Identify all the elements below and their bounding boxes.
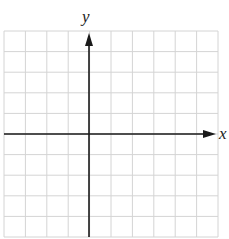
- y-axis-arrow-icon: [85, 33, 93, 46]
- y-axis-label: y: [80, 7, 90, 26]
- x-axis-arrow-icon: [203, 130, 216, 138]
- coordinate-grid: x y: [0, 0, 229, 239]
- axes: [4, 33, 216, 237]
- x-axis-label: x: [218, 124, 227, 143]
